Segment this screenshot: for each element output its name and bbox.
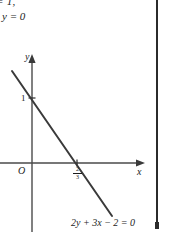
x-axis-label: x [137, 167, 141, 177]
coordinate-graph: y x O 1 2 3 [0, 0, 156, 236]
figure-page: = 1, y = 0 y x O 1 2 3 2y [0, 0, 170, 236]
fraction-numerator: 2 [73, 166, 82, 172]
origin-label: O [18, 166, 25, 176]
y-axis-label: y [25, 52, 29, 62]
plotted-line [12, 71, 112, 216]
graph-canvas [0, 0, 156, 236]
x-intercept-fraction-label: 2 3 [73, 166, 82, 180]
y-intercept-value-label: 1 [21, 93, 26, 103]
page-rule [156, 0, 158, 228]
fraction-denominator: 3 [73, 174, 82, 180]
y-axis-arrowhead [28, 54, 35, 63]
figure-caption-equation: 2y + 3x − 2 = 0 [71, 218, 135, 228]
